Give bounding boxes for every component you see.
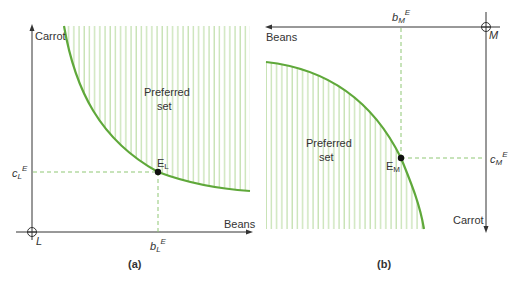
equilibrium-point-b xyxy=(398,155,404,161)
region-label-line2-a: set xyxy=(157,100,172,112)
y-axis-label-a: Carrot xyxy=(35,30,66,42)
c-tick-label-a: cLE xyxy=(12,164,28,181)
x-axis-arrow-icon-b xyxy=(265,25,272,30)
y-axis-arrow-icon-a xyxy=(30,24,35,31)
origin-label-b: M xyxy=(489,29,499,41)
y-axis-arrow-icon-b xyxy=(484,226,489,233)
b-tick-label-a: bLE xyxy=(150,237,167,254)
diagram-canvas: Carrot Beans L Preferred set EL cLE bLE … xyxy=(0,0,519,281)
x-axis-arrow-icon-a xyxy=(246,230,253,235)
equilibrium-point-a xyxy=(155,169,161,175)
origin-label-a: L xyxy=(36,235,42,247)
region-label-line1-a: Preferred xyxy=(144,86,190,98)
caption-a: (a) xyxy=(128,258,142,270)
panel-a: Carrot Beans L Preferred set EL cLE bLE … xyxy=(12,24,256,270)
y-axis-label-b: Carrot xyxy=(453,214,484,226)
c-tick-label-b: cME xyxy=(490,150,508,167)
x-axis-label-b: Beans xyxy=(266,31,298,43)
region-label-line1-b: Preferred xyxy=(306,137,352,149)
region-label-line2-b: set xyxy=(319,151,334,163)
caption-b: (b) xyxy=(377,258,391,270)
b-tick-label-b: bME xyxy=(392,8,411,25)
preferred-set-region-a xyxy=(60,26,252,194)
panel-b: Beans Carrot M Preferred set EM bME cME … xyxy=(264,8,508,270)
x-axis-label-a: Beans xyxy=(224,218,256,230)
